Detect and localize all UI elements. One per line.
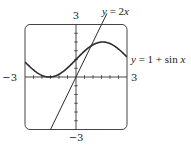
y-max-label: 3 xyxy=(73,10,79,21)
label-y-2x: y = 2x xyxy=(101,5,129,17)
x-min-label: −3 xyxy=(2,72,17,83)
x-max-label: 3 xyxy=(131,72,137,83)
y-min-label: −3 xyxy=(69,132,84,143)
label-y-1-plus-sin-x: y = 1 + sin x xyxy=(130,53,185,65)
graph: 3 −3 −3 3 y = 2x y = 1 + sin x xyxy=(0,0,191,145)
